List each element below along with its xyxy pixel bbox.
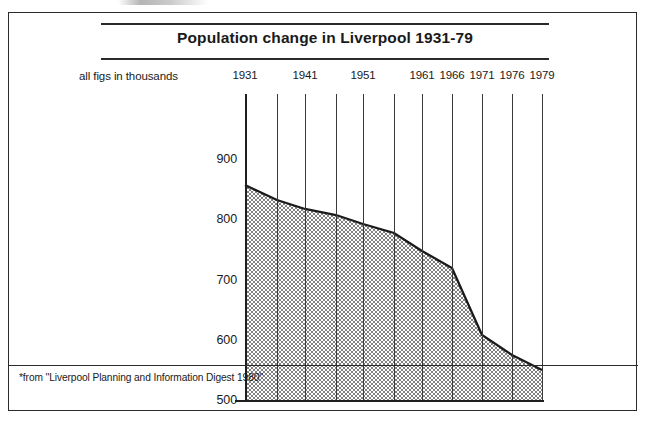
grid-line-1951 <box>363 94 364 400</box>
x-tick-label-1951: 1951 <box>351 69 376 81</box>
grid-line-1979 <box>542 94 543 400</box>
x-axis-line <box>235 400 544 402</box>
x-tick-label-1966: 1966 <box>440 69 465 81</box>
y-axis-line <box>245 94 247 401</box>
grid-line-1976 <box>512 94 513 400</box>
y-tick-label-900: 900 <box>216 152 237 166</box>
y-tick-label-800: 800 <box>216 212 237 226</box>
y-tick-label-600: 600 <box>216 333 237 347</box>
y-tick-label-700: 700 <box>216 273 237 287</box>
y-tick-label-500: 500 <box>216 393 237 407</box>
scan-edge-artifact <box>118 0 208 5</box>
x-tick-label-1979: 1979 <box>530 69 555 81</box>
grid-line-1961 <box>422 94 423 400</box>
grid-line-1946 <box>336 94 337 400</box>
source-footnote: *from ''Liverpool Planning and Informati… <box>19 372 263 383</box>
grid-line-1936 <box>277 94 278 400</box>
x-tick-label-1976: 1976 <box>500 69 525 81</box>
x-tick-label-1941: 1941 <box>293 69 318 81</box>
x-tick-label-1931: 1931 <box>233 69 258 81</box>
figure-frame: Population change in Liverpool 1931-79 a… <box>8 12 637 411</box>
grid-line-1941 <box>305 94 306 400</box>
footnote-rule <box>9 365 638 366</box>
grid-line-1971 <box>482 94 483 400</box>
grid-line-1956 <box>394 94 395 400</box>
x-tick-label-1971: 1971 <box>470 69 495 81</box>
plot-area: 19311941195119611966197119761979 5006007… <box>9 13 638 412</box>
grid-line-1966 <box>452 94 453 400</box>
x-tick-label-1961: 1961 <box>410 69 435 81</box>
